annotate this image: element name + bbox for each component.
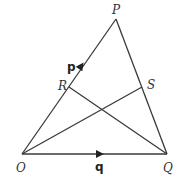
- label-s-point: S: [147, 78, 155, 92]
- segment-os: [22, 87, 142, 154]
- segment-op: [22, 19, 116, 154]
- label-o-point: O: [16, 161, 26, 175]
- segment-pq: [116, 19, 167, 154]
- vector-triangle-diagram: P R S O Q p q: [0, 0, 182, 184]
- label-vector-q: q: [95, 160, 104, 174]
- label-q-point: Q: [163, 161, 173, 175]
- arrow-q-icon: [96, 150, 104, 158]
- segment-rq: [69, 87, 167, 154]
- label-r-point: R: [57, 79, 67, 93]
- label-p-point: P: [111, 3, 121, 17]
- label-vector-p: p: [67, 60, 76, 74]
- arrow-p-icon: [76, 60, 87, 71]
